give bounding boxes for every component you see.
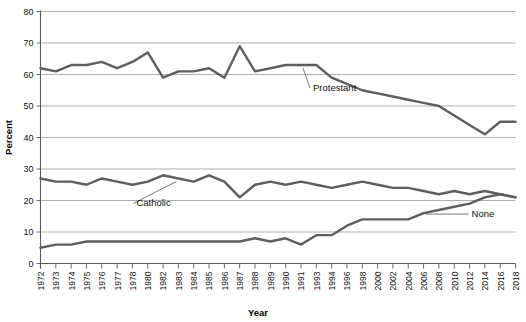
- series-annotation-none: None: [472, 208, 495, 219]
- x-tick-label-1982: 1982: [158, 271, 168, 290]
- x-tick-label-2018: 2018: [511, 271, 521, 290]
- data-series-group: [41, 46, 516, 248]
- x-axis-title: Year: [248, 307, 268, 318]
- x-tick-label-2000: 2000: [373, 271, 383, 290]
- series-annotation-catholic: Catholic: [136, 197, 171, 208]
- x-tick-label-1983: 1983: [174, 271, 184, 290]
- x-tick-label-2004: 2004: [404, 271, 414, 290]
- x-tick-label-1978: 1978: [128, 271, 138, 290]
- y-tick-label-20: 20: [23, 196, 33, 206]
- x-tick-label-1980: 1980: [143, 271, 153, 290]
- y-tick-label-0: 0: [28, 259, 33, 269]
- x-tick-label-1990: 1990: [281, 271, 291, 290]
- y-tick-label-60: 60: [23, 70, 33, 80]
- series-annotation-protestant: Protestant: [313, 82, 357, 93]
- x-tick-label-2002: 2002: [388, 271, 398, 290]
- gridlines-group: [41, 12, 516, 233]
- series-line-none: [41, 194, 516, 248]
- y-tick-label-10: 10: [23, 227, 33, 237]
- series-line-protestant: [41, 46, 516, 134]
- x-tick-label-1974: 1974: [67, 271, 77, 290]
- x-tick-label-1989: 1989: [266, 271, 276, 290]
- religious-affiliation-line-chart: 01020304050607080 1972197319741975197619…: [0, 0, 526, 322]
- x-tick-label-1996: 1996: [342, 271, 352, 290]
- x-tick-label-1976: 1976: [97, 271, 107, 290]
- y-tick-label-70: 70: [23, 38, 33, 48]
- x-tick-label-1973: 1973: [51, 271, 61, 290]
- x-tick-labels-group: 1972197319741975197619771978198019821983…: [36, 271, 521, 290]
- y-tick-labels-group: 01020304050607080: [23, 7, 33, 269]
- x-tick-label-2014: 2014: [480, 271, 490, 290]
- axes-group: [41, 11, 516, 269]
- x-tick-label-2008: 2008: [434, 271, 444, 290]
- x-tick-label-1987: 1987: [235, 271, 245, 290]
- x-tick-label-2016: 2016: [496, 271, 506, 290]
- x-tick-label-1985: 1985: [204, 271, 214, 290]
- x-tick-label-2012: 2012: [465, 271, 475, 290]
- x-tick-label-1975: 1975: [82, 271, 92, 290]
- x-tick-label-1988: 1988: [250, 271, 260, 290]
- leader-line-protestant: [303, 68, 310, 88]
- x-tick-label-1984: 1984: [189, 271, 199, 290]
- x-tick-label-1998: 1998: [358, 271, 368, 290]
- y-tick-label-40: 40: [23, 133, 33, 143]
- x-tick-label-2010: 2010: [450, 271, 460, 290]
- x-tick-label-1994: 1994: [327, 271, 337, 290]
- y-tick-label-50: 50: [23, 101, 33, 111]
- x-tick-label-1972: 1972: [36, 271, 46, 290]
- x-tick-label-1991: 1991: [296, 271, 306, 290]
- chart-svg: 01020304050607080 1972197319741975197619…: [0, 0, 526, 322]
- x-tick-label-1993: 1993: [312, 271, 322, 290]
- x-tick-label-1977: 1977: [113, 271, 123, 290]
- y-tick-label-30: 30: [23, 164, 33, 174]
- series-line-catholic: [41, 175, 516, 197]
- x-tick-label-1986: 1986: [220, 271, 230, 290]
- x-tick-label-2006: 2006: [419, 271, 429, 290]
- y-axis-title: Percent: [3, 119, 14, 155]
- tickmarks-group: [37, 12, 516, 269]
- y-tick-label-80: 80: [23, 7, 33, 17]
- series-annotations-group: ProtestantCatholicNone: [133, 68, 494, 219]
